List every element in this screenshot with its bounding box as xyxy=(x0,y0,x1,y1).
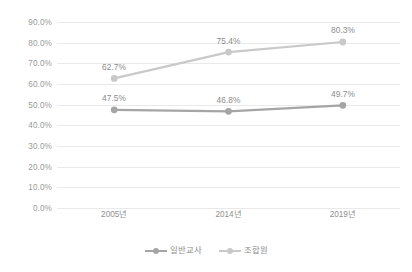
teacher-point-2005 xyxy=(111,106,118,113)
legend-item-teacher[interactable]: 일반교사 xyxy=(145,246,202,255)
y-tick-label: 0.0% xyxy=(6,205,52,213)
legend-marker-union-icon xyxy=(219,246,241,255)
legend-marker-teacher-icon xyxy=(145,246,167,255)
union-point-2014 xyxy=(225,49,232,56)
series-layer xyxy=(57,22,400,208)
union-point-2005 xyxy=(111,75,118,82)
data-label-union-2005: 62.7% xyxy=(102,63,126,71)
y-tick-label: 10.0% xyxy=(6,184,52,192)
y-tick-label: 40.0% xyxy=(6,122,52,130)
legend-item-union[interactable]: 조합원 xyxy=(219,246,268,255)
y-tick-label: 50.0% xyxy=(6,102,52,110)
gridline-0 xyxy=(57,208,400,209)
data-label-union-2019: 80.3% xyxy=(331,26,355,34)
x-tick-label-2005: 2005년 xyxy=(101,211,127,219)
teacher-point-2014 xyxy=(225,108,232,115)
legend-label-union: 조합원 xyxy=(244,246,268,254)
legend-label-teacher: 일반교사 xyxy=(170,246,202,254)
y-tick-label: 20.0% xyxy=(6,164,52,172)
union-line xyxy=(114,42,343,78)
y-tick-label: 70.0% xyxy=(6,60,52,68)
data-label-teacher-2005: 47.5% xyxy=(102,94,126,102)
x-tick-label-2019: 2019년 xyxy=(330,211,356,219)
y-tick-label: 90.0% xyxy=(6,19,52,27)
data-label-teacher-2014: 46.8% xyxy=(216,96,240,104)
data-label-union-2014: 75.4% xyxy=(216,37,240,45)
y-axis: 90.0% 80.0% 70.0% 60.0% 50.0% 40.0% 30.0… xyxy=(0,22,52,208)
data-label-teacher-2019: 49.7% xyxy=(331,90,355,98)
legend: 일반교사 조합원 xyxy=(0,246,412,255)
y-tick-label: 80.0% xyxy=(6,40,52,48)
y-tick-label: 30.0% xyxy=(6,143,52,151)
union-point-2019 xyxy=(339,39,346,46)
x-axis: 2005년 2014년 2019년 xyxy=(57,211,400,227)
y-tick-label: 60.0% xyxy=(6,81,52,89)
teacher-point-2019 xyxy=(339,102,346,109)
line-chart: 90.0% 80.0% 70.0% 60.0% 50.0% 40.0% 30.0… xyxy=(0,0,412,272)
x-tick-label-2014: 2014년 xyxy=(215,211,241,219)
